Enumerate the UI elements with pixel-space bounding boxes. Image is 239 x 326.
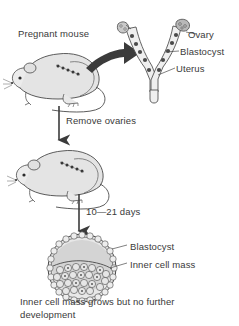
pregnant-mouse-illustration (3, 53, 105, 112)
y-shaped-uterus-illustration (117, 19, 196, 103)
diagram-figure: Pregnant mouse Ovary Blastocyst Uterus R… (0, 0, 239, 326)
ovariectomized-mouse-illustration (7, 150, 109, 209)
label-pregnant-mouse: Pregnant mouse (18, 28, 89, 39)
label-days: 10—21 days (86, 206, 140, 217)
curved-arrow-right (86, 42, 140, 73)
label-inner-cell-mass: Inner cell mass (130, 259, 200, 270)
label-blastocyst-section: Blastocyst (130, 241, 174, 252)
label-uterus: Uterus (176, 63, 205, 74)
leader-blastocyst-bottom (112, 245, 127, 249)
figure-caption: Inner cell mass grows but no further dev… (20, 295, 220, 321)
label-remove-ovaries: Remove ovaries (66, 115, 136, 126)
blastocyst-cross-section-illustration (47, 232, 127, 304)
label-blastocyst-uterus: Blastocyst (180, 46, 224, 57)
label-ovary: Ovary (188, 29, 214, 40)
